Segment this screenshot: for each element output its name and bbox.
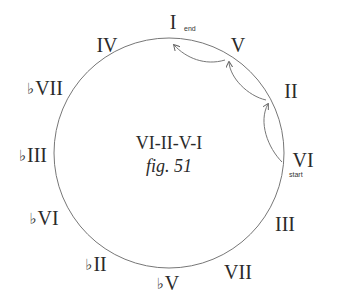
- end-tag: end: [184, 25, 196, 32]
- arrow-vi-to-ii: [264, 104, 282, 162]
- circle-of-fifths-diagram: IVIIVIIIIVII♭V♭II♭VI♭III♭VIIIV end start…: [0, 0, 337, 303]
- roman-numeral: VII: [224, 261, 252, 283]
- roman-numeral: II: [93, 253, 106, 275]
- degree-label-bvii: ♭VII: [27, 78, 63, 98]
- degree-label-vi: VI: [292, 150, 313, 170]
- roman-numeral: II: [284, 80, 297, 102]
- roman-numeral: VI: [292, 149, 313, 171]
- flat-icon: ♭: [19, 148, 26, 164]
- roman-numeral: V: [231, 34, 245, 56]
- degree-label-bv: ♭V: [157, 273, 180, 293]
- degree-circle: [54, 38, 284, 268]
- roman-numeral: VII: [35, 77, 63, 99]
- flat-icon: ♭: [29, 211, 36, 227]
- degree-label-v: V: [231, 35, 245, 55]
- degree-label-i: I: [170, 12, 177, 32]
- roman-numeral: VI: [37, 207, 58, 229]
- degree-label-biii: ♭III: [19, 145, 47, 165]
- arrow-ii-to-v: [229, 62, 266, 100]
- progression-title: VI-II-V-I: [136, 134, 202, 152]
- degree-label-bii: ♭II: [85, 254, 106, 274]
- flat-icon: ♭: [157, 276, 164, 292]
- arrow-v-to-i: [174, 45, 225, 62]
- flat-icon: ♭: [27, 81, 34, 97]
- roman-numeral: I: [170, 11, 177, 33]
- degree-label-iv: IV: [96, 35, 117, 55]
- degree-label-bvi: ♭VI: [29, 208, 58, 228]
- roman-numeral: III: [27, 144, 47, 166]
- degree-label-vii: VII: [224, 262, 252, 282]
- start-tag: start: [289, 171, 303, 178]
- figure-label: fig. 51: [146, 157, 192, 175]
- roman-numeral: IV: [96, 34, 117, 56]
- flat-icon: ♭: [85, 257, 92, 273]
- roman-numeral: III: [275, 213, 295, 235]
- degree-label-ii: II: [284, 81, 297, 101]
- degree-label-iii: III: [275, 214, 295, 234]
- roman-numeral: V: [165, 272, 179, 294]
